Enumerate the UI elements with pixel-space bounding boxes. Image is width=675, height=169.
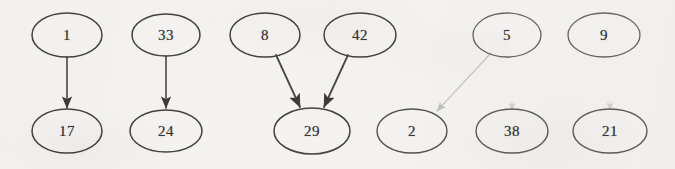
edge-42-to-29 (324, 55, 348, 107)
node-label-21: 21 (602, 124, 618, 139)
edge-layer (67, 53, 610, 111)
node-label-5: 5 (503, 28, 511, 43)
edge-5-to-2 (437, 53, 491, 111)
node-label-8: 8 (261, 28, 269, 43)
node-label-42: 42 (352, 28, 368, 43)
node-label-24: 24 (158, 124, 174, 139)
node-label-2: 2 (408, 124, 416, 139)
node-label-17: 17 (59, 124, 75, 139)
node-label-29: 29 (304, 124, 320, 139)
node-label-9: 9 (600, 28, 608, 43)
node-layer (32, 13, 647, 154)
edge-8-to-29 (276, 55, 300, 107)
node-label-1: 1 (63, 28, 71, 43)
graph-svg (0, 0, 675, 169)
node-label-33: 33 (158, 28, 174, 43)
node-label-38: 38 (504, 124, 520, 139)
diagram-canvas: 1338425917242923821 (0, 0, 675, 169)
